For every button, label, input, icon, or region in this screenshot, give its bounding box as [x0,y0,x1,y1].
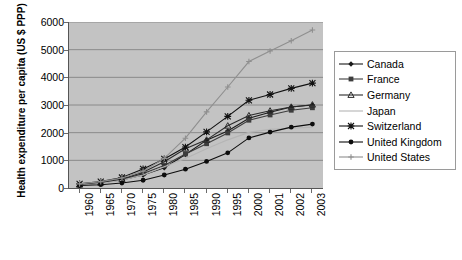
x-tick-mark [142,189,143,193]
legend-item[interactable]: United Kingdom [338,134,452,150]
y-tick-label: 4000 [22,71,64,83]
chart-figure: Health expenditure per capita (US $ PPP)… [0,0,462,260]
data-point-star [348,123,355,130]
legend-item[interactable]: Switzerland [338,118,452,134]
data-point-plus [288,38,294,44]
data-point-circle [310,122,315,127]
y-tick-label: 5000 [22,44,64,56]
y-tick-mark [64,133,68,134]
x-tick-label: 1975 [146,193,158,216]
x-tick-label: 2000 [252,193,264,216]
data-point-circle [289,125,294,130]
legend-marker-icon [338,89,364,101]
data-point-circle [162,173,167,178]
legend-label: Japan [364,105,396,117]
legend-label: France [364,73,400,85]
series-line [80,105,313,185]
y-tick-label: 2000 [22,127,64,139]
x-tick-label: 1995 [231,193,243,216]
y-tick-label: 3000 [22,99,64,111]
y-tick-mark [64,105,68,106]
legend-label: United Kingdom [364,136,442,148]
x-tick-label: 1970 [125,193,137,216]
series-germany [76,102,315,187]
data-point-square [183,152,188,157]
data-point-circle [141,178,146,183]
y-tick-label: 1000 [22,154,64,166]
series-line [80,83,313,184]
y-tick-mark [64,77,68,78]
data-point-star [246,97,253,104]
x-tick-mark [79,189,80,193]
x-tick-mark [121,189,122,193]
legend-marker-icon [338,120,364,132]
data-point-circle [247,136,252,141]
legend-item[interactable]: Japan [338,103,452,119]
legend-marker-icon [338,58,364,70]
data-point-plus [348,155,354,161]
legend-marker-icon [338,73,364,85]
legend-marker-icon [338,105,364,117]
x-tick-label: 2001 [273,193,285,216]
legend-label: Switzerland [364,120,421,132]
series-line [80,127,313,185]
y-tick-label: 6000 [22,16,64,28]
x-tick-mark [227,189,228,193]
data-point-square [225,131,230,136]
x-tick-label: 1960 [83,193,95,216]
legend-item[interactable]: France [338,72,452,88]
x-tick-mark [206,189,207,193]
x-tick-label: 1985 [188,193,200,216]
data-point-square [310,105,315,110]
data-point-star [182,144,189,151]
x-tick-label: 1980 [167,193,179,216]
legend-label: Canada [364,58,404,70]
y-tick-mark [64,50,68,51]
series-japan [80,127,313,185]
series-france [77,105,315,187]
x-tick-mark [290,189,291,193]
legend-label: Germany [364,89,410,101]
legend-marker-icon [338,151,364,163]
plot-area [68,22,323,189]
y-tick-mark [64,188,68,189]
y-axis-tick-labels: 0100020003000400050006000 [22,0,64,260]
y-tick-mark [64,22,68,23]
data-point-star [203,128,210,135]
data-point-circle [349,139,354,144]
x-axis-tick-labels: 1960196519701975198019851990199520002001… [68,189,322,260]
x-tick-mark [163,189,164,193]
data-point-square [247,118,252,123]
y-tick-label: 0 [22,182,64,194]
data-point-star [288,85,295,92]
x-tick-label: 2002 [294,193,306,216]
x-tick-label: 1990 [210,193,222,216]
series-line [80,108,313,185]
legend-item[interactable]: Canada [338,56,452,72]
series-line [80,124,313,185]
series-switzerland [76,80,316,188]
data-point-star [309,80,316,87]
data-point-star [224,113,231,120]
x-tick-label: 2003 [315,193,327,216]
legend-item[interactable]: United States [338,150,452,166]
data-point-star [267,91,274,98]
data-point-plus [267,48,273,54]
data-point-circle [204,159,209,164]
series-united-kingdom [77,122,315,188]
series-canvas [69,22,323,188]
data-point-circle [268,130,273,135]
series-united-states [77,27,315,186]
x-tick-mark [269,189,270,193]
data-point-circle [225,150,230,155]
x-tick-mark [184,189,185,193]
legend-item[interactable]: Germany [338,87,452,103]
data-point-circle [120,181,125,186]
data-point-square [289,108,294,113]
data-point-square [349,77,354,82]
legend-label: United States [364,151,430,163]
chart-legend: CanadaFranceGermanyJapanSwitzerlandUnite… [334,51,456,170]
x-tick-mark [311,189,312,193]
x-tick-mark [248,189,249,193]
data-point-diamond [348,61,353,66]
